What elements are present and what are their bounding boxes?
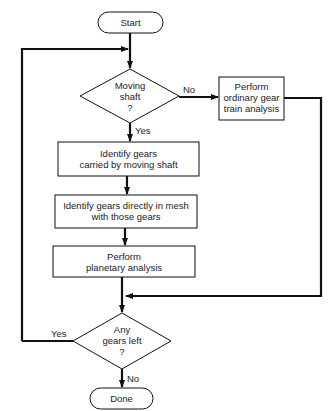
identify-mesh-line1: Identify gears directly in mesh [55,200,197,211]
any-left-line3: ? [82,346,162,357]
done-label: Done [90,393,153,404]
identify-carried-line1: Identify gears [58,148,199,159]
identify-carried-line2: carried by moving shaft [58,159,199,170]
edge-label-yes-1: Yes [135,125,151,136]
moving-shaft-line3: ? [90,102,170,113]
planetary-line1: Perform [53,251,195,262]
ordinary-label: Perform ordinary gear train analysis [219,81,284,114]
ordinary-line2: ordinary gear [219,92,284,103]
identify-carried-label: Identify gears carried by moving shaft [58,148,199,170]
planetary-label: Perform planetary analysis [53,251,195,273]
moving-shaft-line2: shaft [90,91,170,102]
moving-shaft-label: Moving shaft ? [90,80,170,113]
any-left-line2: gears left [82,335,162,346]
ordinary-line1: Perform [219,81,284,92]
identify-mesh-line2: with those gears [55,211,197,222]
edge-label-no-2: No [127,373,139,384]
edge-label-yes-2: Yes [51,328,67,339]
planetary-line2: planetary analysis [53,262,195,273]
start-label: Start [98,17,163,28]
moving-shaft-line1: Moving [90,80,170,91]
any-gears-left-label: Any gears left ? [82,324,162,357]
edge-label-no-1: No [183,84,195,95]
ordinary-line3: train analysis [219,103,284,114]
identify-mesh-label: Identify gears directly in mesh with tho… [55,200,197,222]
any-left-line1: Any [82,324,162,335]
